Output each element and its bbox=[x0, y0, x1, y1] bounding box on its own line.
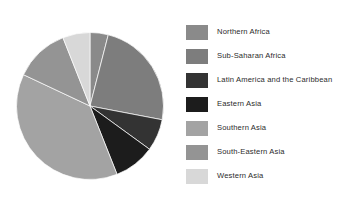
pie-slice-group bbox=[17, 33, 164, 180]
legend-item-label: Latin America and the Caribbean bbox=[217, 75, 332, 85]
legend-item[interactable]: South-Eastern Asia bbox=[186, 140, 341, 164]
legend-item-label: Southern Asia bbox=[217, 123, 266, 133]
legend-swatch bbox=[186, 121, 208, 136]
legend-item-label: South-Eastern Asia bbox=[217, 147, 285, 157]
legend-swatch bbox=[186, 49, 208, 64]
legend-item-label: Western Asia bbox=[217, 171, 263, 181]
pie-chart-figure: Northern AfricaSub-Saharan AfricaLatin A… bbox=[0, 0, 345, 214]
legend-item[interactable]: Sub-Saharan Africa bbox=[186, 44, 341, 68]
legend-swatch bbox=[186, 73, 208, 88]
legend-item[interactable]: Eastern Asia bbox=[186, 92, 341, 116]
legend-item[interactable]: Latin America and the Caribbean bbox=[186, 68, 341, 92]
legend-item[interactable]: Western Asia bbox=[186, 164, 341, 188]
legend-item-label: Sub-Saharan Africa bbox=[217, 51, 286, 61]
legend-swatch bbox=[186, 145, 208, 160]
pie-chart-svg bbox=[16, 32, 164, 180]
legend-item[interactable]: Northern Africa bbox=[186, 20, 341, 44]
chart-legend: Northern AfricaSub-Saharan AfricaLatin A… bbox=[186, 20, 341, 188]
pie-chart-plot-area bbox=[16, 32, 164, 180]
legend-swatch bbox=[186, 25, 208, 40]
legend-item[interactable]: Southern Asia bbox=[186, 116, 341, 140]
legend-swatch bbox=[186, 169, 208, 184]
legend-swatch bbox=[186, 97, 208, 112]
legend-item-label: Northern Africa bbox=[217, 27, 270, 37]
legend-item-label: Eastern Asia bbox=[217, 99, 261, 109]
